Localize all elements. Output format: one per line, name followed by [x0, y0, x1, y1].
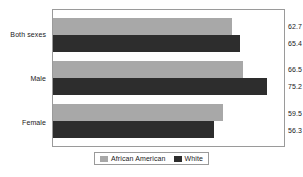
bar-row: 59.5 — [53, 104, 284, 121]
bar-row: 62.7 — [53, 18, 284, 35]
legend-label-white: White — [185, 155, 203, 162]
bar-female-african-american[interactable] — [53, 104, 223, 121]
bar-value-female-african-american: 59.5 — [288, 109, 302, 116]
bar-value-male-white: 75.2 — [288, 83, 302, 90]
bar-both-sexes-white[interactable] — [53, 35, 240, 52]
bar-group-both-sexes: 62.7 65.4 — [53, 18, 284, 52]
legend-label-african-american: African American — [111, 155, 166, 162]
legend-item-white[interactable]: White — [174, 155, 203, 162]
bar-value-both-sexes-white: 65.4 — [288, 40, 302, 47]
bar-both-sexes-african-american[interactable] — [53, 18, 232, 35]
category-label-female: Female — [22, 119, 46, 126]
bar-male-african-american[interactable] — [53, 61, 243, 78]
category-label-cell: Male — [0, 61, 50, 95]
bar-group-male: 66.5 75.2 — [53, 61, 284, 95]
bar-row: 65.4 — [53, 35, 284, 52]
bar-male-white[interactable] — [53, 78, 267, 95]
category-label-cell: Female — [0, 105, 50, 139]
legend: African American White — [0, 152, 303, 165]
bar-group-female: 59.5 56.3 — [53, 104, 284, 138]
bar-value-male-african-american: 66.5 — [288, 66, 302, 73]
category-label-male: Male — [30, 75, 46, 82]
legend-swatch-icon-white — [174, 156, 182, 162]
bar-value-female-white: 56.3 — [288, 126, 302, 133]
bars-layer: 62.7 65.4 66.5 75.2 — [53, 10, 284, 146]
legend-box: African American White — [94, 152, 209, 165]
legend-swatch-icon-african-american — [100, 156, 108, 162]
legend-item-african-american[interactable]: African American — [100, 155, 166, 162]
bar-row: 75.2 — [53, 78, 284, 95]
plot-area: 62.7 65.4 66.5 75.2 — [52, 9, 285, 147]
bar-row: 66.5 — [53, 61, 284, 78]
bar-value-both-sexes-african-american: 62.7 — [288, 23, 302, 30]
bar-chart: Both sexes Male Female 62.7 65.4 — [0, 0, 303, 177]
category-label-both-sexes: Both sexes — [10, 31, 46, 38]
bar-female-white[interactable] — [53, 121, 214, 138]
bar-row: 56.3 — [53, 121, 284, 138]
category-label-cell: Both sexes — [0, 17, 50, 51]
category-axis-labels: Both sexes Male Female — [0, 9, 50, 147]
